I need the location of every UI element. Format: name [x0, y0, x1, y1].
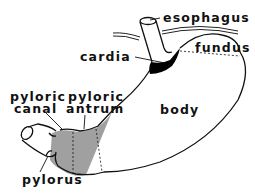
label-fundus: fundus	[195, 42, 251, 54]
label-pyloric-antrum-line2: antrum	[66, 103, 125, 115]
label-pyloric-canal-line2: canal	[14, 103, 57, 115]
label-esophagus: esophagus	[163, 12, 250, 24]
duodenum-stub	[19, 124, 56, 157]
label-cardia: cardia	[80, 51, 131, 63]
diaphragm-lines	[113, 27, 238, 41]
label-body: body	[160, 104, 199, 116]
label-pylorus: pylorus	[22, 174, 83, 186]
